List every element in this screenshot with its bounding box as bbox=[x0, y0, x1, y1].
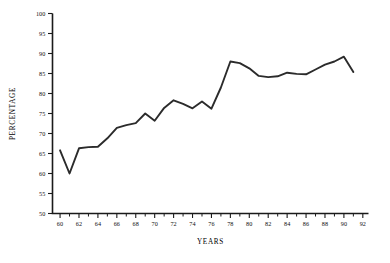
x-axis-tick-label: 90 bbox=[341, 220, 347, 227]
y-axis-tick-label: 90 bbox=[39, 50, 45, 57]
x-axis-tick-label: 70 bbox=[151, 220, 157, 227]
y-axis-tick-label: 95 bbox=[39, 30, 45, 37]
axis-spine bbox=[53, 14, 369, 214]
x-axis-tick-label: 68 bbox=[133, 220, 139, 227]
y-axis-tick-label: 85 bbox=[39, 70, 45, 77]
y-axis-tick-label: 75 bbox=[39, 110, 45, 117]
y-axis-tick-label: 70 bbox=[39, 130, 45, 137]
x-axis-tick-label: 64 bbox=[95, 220, 101, 227]
x-axis-tick-label: 84 bbox=[284, 220, 290, 227]
y-axis-tick-label: 65 bbox=[39, 150, 45, 157]
data-series-line bbox=[60, 57, 353, 174]
x-axis-tick-label: 74 bbox=[189, 220, 195, 227]
x-axis-tick-label: 86 bbox=[303, 220, 309, 227]
x-axis-tick-label: 80 bbox=[246, 220, 252, 227]
line-chart: 5055606570758085909510060626466687072747… bbox=[0, 0, 390, 263]
y-axis-tick-label: 80 bbox=[39, 90, 45, 97]
x-axis-tick-label: 82 bbox=[265, 220, 271, 227]
y-axis-tick-label: 100 bbox=[36, 10, 46, 17]
x-axis-tick-label: 78 bbox=[227, 220, 233, 227]
y-axis-title: PERCENTAGE bbox=[9, 87, 17, 140]
x-axis-title: YEARS bbox=[197, 238, 224, 246]
x-axis-tick-label: 60 bbox=[57, 220, 63, 227]
x-axis-tick-label: 92 bbox=[360, 220, 366, 227]
chart-canvas: 5055606570758085909510060626466687072747… bbox=[0, 0, 390, 263]
x-axis-tick-label: 72 bbox=[170, 220, 176, 227]
x-axis-tick-label: 66 bbox=[114, 220, 120, 227]
y-axis-tick-label: 60 bbox=[39, 170, 45, 177]
y-axis-tick-label: 50 bbox=[39, 210, 45, 217]
x-axis-tick-label: 88 bbox=[322, 220, 328, 227]
x-axis-tick-label: 76 bbox=[208, 220, 214, 227]
x-axis-tick-label: 62 bbox=[76, 220, 82, 227]
y-axis-tick-label: 55 bbox=[39, 190, 45, 197]
